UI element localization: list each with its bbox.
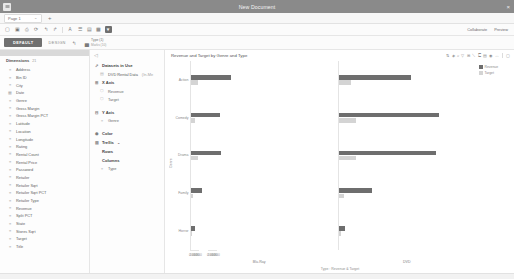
legend-item-target[interactable]: Target	[479, 71, 512, 75]
legend-item-revenue[interactable]: Revenue	[479, 65, 512, 69]
maximize-icon[interactable]: ▢	[506, 53, 510, 58]
bar-group[interactable]	[339, 212, 477, 250]
bar-revenue[interactable]	[191, 75, 231, 80]
save-icon[interactable]: ▣	[14, 26, 21, 33]
dimension-item[interactable]: ≡Rating	[0, 143, 89, 151]
dimension-item[interactable]: ≡Address	[0, 66, 89, 74]
tab-design[interactable]: DESIGN	[48, 40, 65, 45]
collapse-icon[interactable]: ◁	[94, 53, 98, 58]
collaborate-button[interactable]: Collaborate	[467, 27, 487, 32]
shelf-section-x-axis[interactable]: ⊞ X Axis	[90, 78, 164, 87]
redo-icon[interactable]: ↱	[52, 26, 59, 33]
dimension-item[interactable]: ≡Stores Sqrt	[0, 227, 89, 235]
bar-target[interactable]	[339, 118, 356, 123]
bar-target[interactable]	[191, 194, 193, 199]
trellis-panel-dvd[interactable]	[338, 61, 477, 250]
bar-group[interactable]	[339, 174, 477, 212]
bar-group[interactable]	[339, 61, 477, 99]
dimension-item[interactable]: ≡Retailer Sqrt PCT	[0, 189, 89, 197]
print-icon[interactable]: ⎙	[23, 26, 30, 33]
expand-icon[interactable]: ↔	[495, 53, 499, 58]
dimension-item[interactable]: ≡Target	[0, 235, 89, 243]
line-icon[interactable]: ⟍	[472, 53, 475, 58]
tab-default[interactable]: DEFAULT	[4, 38, 42, 47]
chevron-down-icon[interactable]: ⌄	[34, 16, 37, 20]
shelf-section-rows[interactable]: Rows	[90, 147, 164, 156]
preview-button[interactable]: Preview	[494, 27, 508, 32]
shelf-section-trellis[interactable]: ▥ Trellis ⌄	[90, 138, 164, 147]
dimension-item[interactable]: ≡Gross Margin PCT	[0, 112, 89, 120]
bar-revenue[interactable]	[339, 75, 411, 80]
bar-group[interactable]	[191, 174, 329, 212]
bar-target[interactable]	[339, 156, 356, 161]
label-icon[interactable]: ⊏	[478, 53, 481, 58]
shelf-collapse-row[interactable]: ◁	[90, 52, 164, 61]
shelf-section-columns[interactable]: Columns	[90, 156, 164, 165]
dimension-item[interactable]: ≡Password	[0, 166, 89, 174]
zoom-icon[interactable]: ⌕	[457, 53, 459, 58]
sort-icon[interactable]: ⇅	[446, 53, 449, 58]
bar-group[interactable]	[191, 137, 329, 175]
bar-target[interactable]	[339, 194, 344, 199]
bar-group[interactable]	[191, 61, 329, 99]
font-icon[interactable]: A	[67, 26, 74, 33]
bar-revenue[interactable]	[339, 188, 373, 193]
filter-icon[interactable]: ▼	[105, 26, 112, 33]
settings-icon[interactable]: ◉	[489, 53, 492, 58]
x-axis-field-revenue[interactable]: ⬡ Revenue	[90, 87, 164, 95]
bar-group[interactable]	[191, 212, 329, 250]
grid-icon[interactable]: ▩	[95, 26, 102, 33]
shelf-section-y-axis[interactable]: ⊟ Y Axis	[90, 108, 164, 117]
chevron-down-icon[interactable]: ⌄	[117, 140, 120, 145]
shelf-section-color[interactable]: ◉ Color	[90, 129, 164, 138]
bar-revenue[interactable]	[191, 188, 202, 193]
pointer-icon[interactable]: ↰	[72, 40, 76, 46]
bar-revenue[interactable]	[339, 226, 345, 231]
dimension-item[interactable]: ≡City	[0, 81, 89, 89]
dimension-item[interactable]: ≡Latitude	[0, 120, 89, 128]
bar-target[interactable]	[191, 231, 192, 236]
undo-icon[interactable]: ↰	[42, 26, 49, 33]
trellis-panel-blu-ray[interactable]	[190, 61, 329, 250]
filter-icon[interactable]: ▽	[461, 53, 464, 58]
dimension-item[interactable]: ≡Rental Price	[0, 158, 89, 166]
dimension-item[interactable]: ≡Revenue	[0, 204, 89, 212]
columns-field-type[interactable]: ≡ Type	[90, 165, 164, 173]
bar-target[interactable]	[191, 80, 198, 85]
add-page-button[interactable]: +	[46, 15, 54, 21]
bar-target[interactable]	[191, 156, 198, 161]
dimension-item[interactable]: ≡Rental Count	[0, 151, 89, 159]
bar-group[interactable]	[191, 99, 329, 137]
dataset-item[interactable]: ▤ DVD Rental Data (In-Me	[90, 70, 164, 78]
bar-target[interactable]	[191, 118, 195, 123]
marker-icon[interactable]: ◈	[452, 53, 455, 58]
dimension-item[interactable]: ≡Gross Margin	[0, 104, 89, 112]
dimension-item[interactable]: ≡Split PCT	[0, 212, 89, 220]
bar-target[interactable]	[339, 80, 352, 85]
shelf-section-datasets[interactable]: ⇗ Datasets in Use	[90, 61, 164, 70]
table-icon[interactable]: ▤	[86, 26, 93, 33]
new-icon[interactable]: ▢	[4, 26, 11, 33]
bar-revenue[interactable]	[191, 113, 220, 118]
dimension-item[interactable]: ≡Longitude	[0, 135, 89, 143]
y-axis-field-genre[interactable]: ≡ Genre	[90, 117, 164, 125]
bar-revenue[interactable]	[339, 151, 436, 156]
dimension-item[interactable]: ≡Bin ID	[0, 74, 89, 82]
bar-revenue[interactable]	[191, 226, 195, 231]
list-icon[interactable]: ☰	[76, 26, 83, 33]
dimension-item[interactable]: ≡State	[0, 220, 89, 228]
grid-icon[interactable]: ⊞	[467, 53, 470, 58]
dimension-item[interactable]: ≡Title	[0, 243, 89, 251]
bar-group[interactable]	[339, 137, 477, 175]
dimension-item[interactable]: ≡Location	[0, 128, 89, 136]
dimension-item[interactable]: ≡Retailer	[0, 174, 89, 182]
x-axis-field-target[interactable]: ⬡ Target	[90, 95, 164, 103]
dimension-item[interactable]: ≡Retailer Sqrt	[0, 181, 89, 189]
bar-target[interactable]	[339, 231, 341, 236]
dimension-item[interactable]: ≡Genre	[0, 97, 89, 105]
bar-group[interactable]	[339, 99, 477, 137]
refresh-icon[interactable]: ⟳	[33, 26, 40, 33]
bar-revenue[interactable]	[191, 151, 221, 156]
dimension-item[interactable]: ▦Date	[0, 89, 89, 97]
bar-revenue[interactable]	[339, 113, 440, 118]
